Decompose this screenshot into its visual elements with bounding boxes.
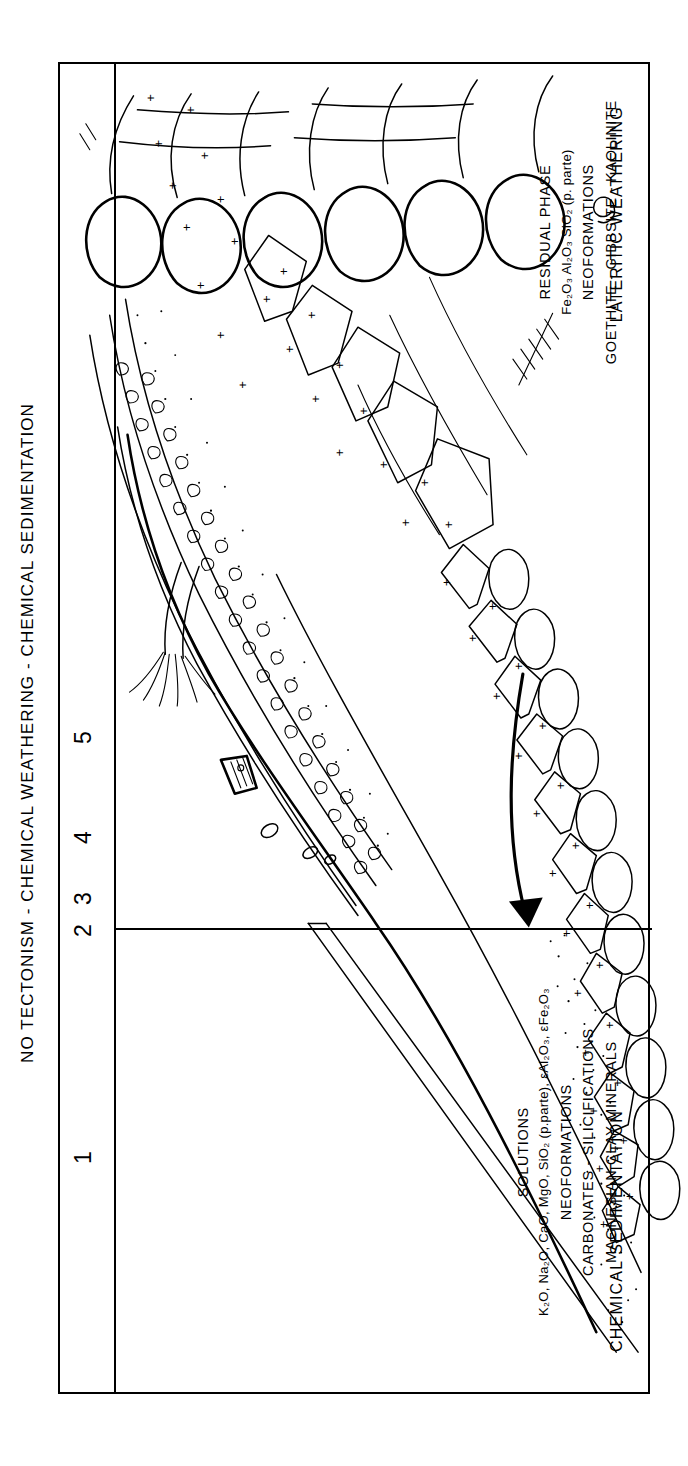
svg-text:+: + [489, 692, 504, 700]
svg-text:+: + [259, 296, 274, 304]
root-fan-feature [130, 562, 215, 706]
svg-text:+: + [553, 782, 568, 790]
residual-products-1: GOETHITE - GIBBSITE - KAOLINITE [600, 100, 622, 364]
svg-text:+: + [535, 722, 550, 730]
svg-text:+: + [441, 521, 456, 529]
svg-text:+: + [592, 962, 607, 970]
clast-oval-1 [259, 821, 280, 840]
svg-text:+: + [213, 331, 228, 339]
svg-text:+: + [622, 1193, 637, 1201]
svg-text:+: + [282, 345, 297, 353]
svg-text:+: + [511, 662, 526, 670]
schistosity-ticks [80, 124, 96, 150]
svg-text:+: + [235, 381, 250, 389]
svg-text:+: + [332, 449, 347, 457]
svg-text:+: + [568, 842, 583, 850]
svg-text:+: + [465, 634, 480, 642]
svg-text:+: + [559, 930, 574, 938]
svg-text:+: + [308, 395, 323, 403]
residual-heading: RESIDUAL PHASE [534, 100, 556, 364]
duricrust-unit3 [90, 315, 381, 905]
solutions-products-1: CARBONATES - SILICIFICATIONS [577, 988, 599, 1316]
svg-text:+: + [193, 282, 208, 290]
svg-text:+: + [197, 152, 212, 160]
solutions-subheading: NEOFORMATIONS [555, 988, 577, 1316]
fracture-network [110, 76, 553, 198]
solutions-products-2: MAGNESIAN CLAY MINERALS [600, 988, 622, 1316]
svg-text:+: + [376, 461, 391, 469]
svg-text:+: + [398, 519, 413, 527]
solutions-formula: K₂O, Na₂O, CaO, MgO, SiO₂ (p.parte), εAl… [534, 988, 554, 1316]
residual-subheading: NEOFORMATIONS [577, 100, 599, 364]
svg-text:+: + [529, 810, 544, 818]
solutions-heading: SOLUTIONS [512, 988, 534, 1316]
svg-text:+: + [356, 407, 371, 415]
svg-text:+: + [332, 361, 347, 369]
figure-stage: NO TECTONISM - CHEMICAL WEATHERING - CHE… [0, 0, 688, 1466]
shell-symbol [221, 756, 257, 794]
svg-text:+: + [485, 603, 500, 611]
svg-text:+: + [545, 870, 560, 878]
thin-horizon-unit2 [118, 427, 358, 916]
svg-text:+: + [418, 479, 433, 487]
svg-text:+: + [582, 902, 597, 910]
svg-text:+: + [276, 268, 291, 276]
figure-title: NO TECTONISM - CHEMICAL WEATHERING - CHE… [18, 0, 38, 1466]
flow-arrow [509, 674, 543, 927]
stipple-dots-upper [136, 310, 388, 846]
svg-text:+: + [304, 311, 319, 319]
residual-formula: Fe₂O₃ Al₂O₃ SiO₂ (p. parte) [557, 100, 577, 364]
annotation-solutions: SOLUTIONS K₂O, Na₂O, CaO, MgO, SiO₂ (p.p… [512, 988, 622, 1316]
svg-text:+: + [143, 94, 158, 102]
svg-text:+: + [439, 579, 454, 587]
annotation-residual-phase: RESIDUAL PHASE Fe₂O₃ Al₂O₃ SiO₂ (p. part… [534, 100, 622, 364]
svg-text:+: + [179, 224, 194, 232]
